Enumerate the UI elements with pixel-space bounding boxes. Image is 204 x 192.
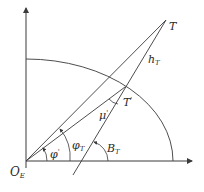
label-T-prime-mark: ' — [130, 96, 132, 104]
label-h-T: hT — [148, 54, 160, 67]
label-T-text: T — [169, 20, 176, 33]
label-phi-T-sub: T — [80, 145, 85, 153]
label-B-T-sub: T — [115, 148, 120, 156]
label-phi-prime-main: φ — [50, 148, 58, 161]
label-O-E-main: O — [10, 165, 20, 179]
label-mu-prime: μ' — [99, 110, 108, 121]
label-B-T: BT — [107, 143, 120, 156]
label-phi-prime-mark: ' — [58, 148, 60, 156]
label-mu-prime-mark: ' — [106, 109, 108, 117]
label-O-E-sub: E — [20, 172, 25, 180]
label-O-E: OE — [10, 166, 25, 180]
label-B-T-main: B — [107, 142, 115, 155]
label-T: T — [169, 21, 176, 32]
angle-arc-B-T — [94, 142, 108, 161]
label-phi-T-main: φ — [72, 139, 80, 152]
geometry-diagram: T hT T' μ' φT BT φ' OE — [0, 0, 204, 192]
label-h-T-sub: T — [155, 59, 160, 67]
angle-arc-phi-prime — [43, 148, 47, 161]
angle-arc-phi-T — [60, 129, 70, 161]
label-T-prime: T' — [123, 97, 132, 108]
line-origin-to-T — [26, 20, 166, 161]
label-phi-T: φT — [72, 140, 84, 153]
label-phi-prime: φ' — [50, 149, 60, 160]
